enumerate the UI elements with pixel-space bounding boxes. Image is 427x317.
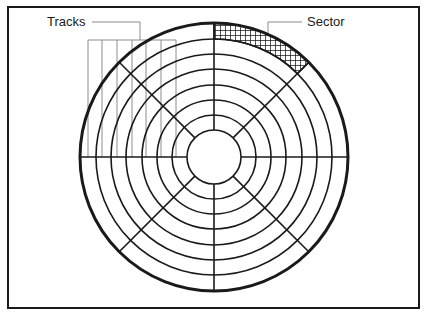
platter <box>80 23 348 291</box>
sector-label: Sector <box>307 14 345 29</box>
disk-platter-diagram: Tracks Sector <box>0 0 427 317</box>
tracks-label: Tracks <box>47 14 86 29</box>
hub-circle <box>187 130 241 184</box>
tracks-leader <box>88 22 176 157</box>
diagram-canvas: Tracks Sector <box>0 0 427 317</box>
